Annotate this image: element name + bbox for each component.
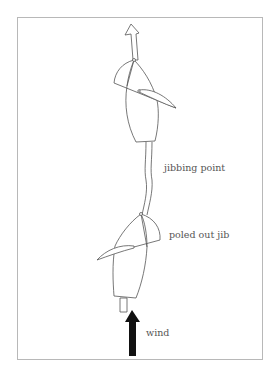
course-arrow-icon [125, 24, 139, 60]
wind-arrow-icon [125, 310, 140, 356]
label-wind: wind [146, 328, 169, 338]
label-jibbing-point: jibbing point [164, 163, 225, 173]
boat-track [142, 142, 152, 215]
label-poled-out-jib: poled out jib [169, 230, 229, 240]
sailing-diagram [0, 0, 278, 370]
lower-boat [97, 213, 160, 313]
upper-boat [114, 59, 176, 143]
